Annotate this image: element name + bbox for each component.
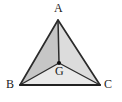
- geometry-figure: A B C G: [0, 0, 122, 102]
- vertex-label-c: C: [104, 78, 112, 90]
- vertex-label-b: B: [6, 78, 14, 90]
- vertex-label-a: A: [54, 2, 63, 14]
- vertex-label-g: G: [55, 65, 64, 77]
- segment-cevian-ag: [58, 20, 59, 63]
